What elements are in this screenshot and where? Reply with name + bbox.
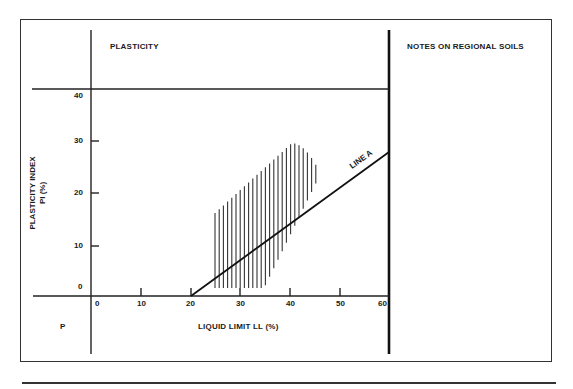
y-ticks xyxy=(91,141,99,246)
x-tick-0: 0 xyxy=(95,299,99,308)
y-tick-10: 10 xyxy=(74,241,83,250)
y-axis-label-line1: PLASTICITY INDEX xyxy=(28,156,38,229)
x-tick-50: 50 xyxy=(336,299,345,308)
y-tick-40: 40 xyxy=(74,91,83,100)
x-tick-10: 10 xyxy=(137,299,146,308)
x-tick-60: 60 xyxy=(378,299,387,308)
x-tick-20: 20 xyxy=(186,299,195,308)
x-axis-label: LIQUID LIMIT LL (%) xyxy=(198,322,279,331)
y-axis-label: PLASTICITY INDEX PI (%) xyxy=(28,156,48,229)
corner-label: P xyxy=(60,322,66,331)
line-a-label: LINE A xyxy=(348,148,374,171)
y-tick-0: 0 xyxy=(78,282,82,291)
x-ticks xyxy=(141,288,340,296)
line-a xyxy=(191,152,389,296)
y-tick-30: 30 xyxy=(74,136,83,145)
x-tick-30: 30 xyxy=(236,299,245,308)
plasticity-chart: LINE A xyxy=(0,0,573,389)
notes-title: NOTES ON REGIONAL SOILS xyxy=(407,42,524,51)
y-axis-label-line2: PI (%) xyxy=(38,156,48,229)
x-tick-40: 40 xyxy=(286,299,295,308)
plasticity-title: PLASTICITY xyxy=(110,42,159,51)
y-tick-20: 20 xyxy=(74,188,83,197)
